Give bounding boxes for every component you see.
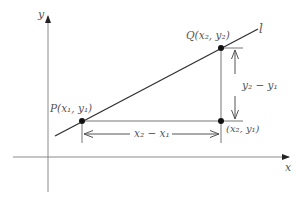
line-l-label: l xyxy=(259,22,263,36)
slope-diagram: y x l P(x₁, y₁) Q(x₂, y₂) (x₂, y₁) y₂ − … xyxy=(0,0,307,209)
x-axis-label: x xyxy=(285,161,292,174)
line-l xyxy=(55,29,258,136)
point-corner xyxy=(218,118,224,124)
rise-label: y₂ − y₁ xyxy=(241,79,278,91)
y-axis-label: y xyxy=(37,8,45,21)
run-label: x₂ − x₁ xyxy=(134,127,170,139)
corner-label: (x₂, y₁) xyxy=(226,123,260,134)
point-q xyxy=(218,45,224,51)
point-p-label: P(x₁, y₁) xyxy=(49,102,92,114)
point-q-label: Q(x₂, y₂) xyxy=(186,29,230,42)
point-p xyxy=(79,118,85,124)
